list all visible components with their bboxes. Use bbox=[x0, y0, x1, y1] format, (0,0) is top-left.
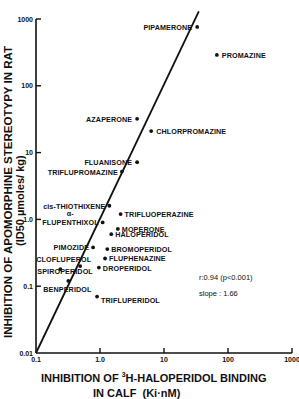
scatter-chart: 0.010.11.0101001000 0.11.0101001000 PIPA… bbox=[0, 0, 299, 399]
point-marker bbox=[107, 204, 111, 208]
x-tick-label: 1000 bbox=[284, 356, 299, 363]
data-point: SPIROPERIDOL bbox=[37, 267, 93, 276]
point-label: FLUANISONE bbox=[84, 158, 132, 167]
data-point: BROMOPERIDOL bbox=[105, 245, 172, 254]
point-marker bbox=[103, 257, 107, 261]
point-label: PIMOZIDE bbox=[54, 243, 90, 252]
slope-annotation: slope : 1.66 bbox=[199, 289, 238, 298]
point-marker bbox=[135, 117, 139, 121]
y-tick-label: 10 bbox=[25, 149, 33, 156]
data-point: CLOFLUPEROL bbox=[36, 255, 92, 268]
point-label: PROMAZINE bbox=[222, 51, 266, 60]
data-point: DROPERIDOL bbox=[97, 264, 152, 273]
x-axis-title-post: H-HALOPERIDOL BINDING bbox=[126, 372, 267, 384]
x-tick-label: 100 bbox=[222, 356, 234, 363]
point-label: FLUPENTHIXOL bbox=[42, 218, 99, 227]
data-point: TRIFLUPROMAZINE bbox=[48, 168, 124, 177]
point-label: DROPERIDOL bbox=[103, 264, 152, 273]
x-tick-label: 0.1 bbox=[31, 356, 41, 363]
point-label-prefix: α- bbox=[67, 209, 75, 218]
data-point: HALOPERIDOL bbox=[109, 230, 169, 239]
point-label: TRIFLUOPERAZINE bbox=[125, 210, 194, 219]
correlation-annotation: r:0.94 (p<0.001) bbox=[199, 273, 253, 282]
point-marker bbox=[105, 247, 109, 251]
y-axis-title-line2: (ID50 µmoles/ kg) bbox=[14, 155, 26, 246]
point-label: PIPAMERONE bbox=[143, 23, 192, 32]
data-point: PIPAMERONE bbox=[143, 23, 199, 32]
point-label: AZAPERONE bbox=[86, 115, 132, 124]
data-point: FLUPHENAZINE bbox=[103, 254, 166, 263]
point-label: TRIFLUPROMAZINE bbox=[48, 168, 118, 177]
data-point: CHLORPROMAZINE bbox=[149, 127, 226, 136]
point-marker bbox=[91, 246, 95, 250]
data-point: cis-THIOTHIXENE bbox=[43, 202, 111, 211]
y-axis-title: INHIBITION OF APOMORPHINE STEREOTYPY IN … bbox=[2, 46, 14, 338]
x-axis-ticks: 0.11.0101001000 bbox=[31, 348, 299, 363]
data-point: FLUANISONE bbox=[84, 158, 139, 167]
point-marker bbox=[135, 160, 139, 164]
y-tick-label: 0.1 bbox=[23, 283, 33, 290]
x-axis-title-line2: IN CALF (Ki·nM) bbox=[93, 387, 181, 399]
data-point: AZAPERONE bbox=[86, 115, 139, 124]
point-marker bbox=[149, 129, 153, 133]
point-label: HALOPERIDOL bbox=[115, 230, 169, 239]
point-marker bbox=[195, 25, 199, 29]
point-marker bbox=[215, 53, 219, 57]
y-tick-label: 1000 bbox=[17, 16, 33, 23]
x-tick-label: 1.0 bbox=[95, 356, 105, 363]
point-label: BENPERIDOL bbox=[43, 285, 92, 294]
point-label: TRIFLUPERIDOL bbox=[101, 296, 160, 305]
point-label: FLUPHENAZINE bbox=[109, 254, 166, 263]
point-label: CLOFLUPEROL bbox=[36, 255, 92, 264]
y-tick-label: 100 bbox=[21, 82, 33, 89]
axes bbox=[36, 19, 292, 353]
data-point: TRIFLUOPERAZINE bbox=[119, 210, 194, 219]
point-label: CHLORPROMAZINE bbox=[156, 127, 226, 136]
x-tick-label: 10 bbox=[160, 356, 168, 363]
data-points: PIPAMERONEPROMAZINEAZAPERONECHLORPROMAZI… bbox=[36, 23, 266, 305]
point-marker bbox=[95, 295, 99, 299]
point-label: BROMOPERIDOL bbox=[111, 245, 172, 254]
point-marker bbox=[97, 266, 101, 270]
data-point: TRIFLUPERIDOL bbox=[95, 295, 160, 305]
data-point: PIMOZIDE bbox=[54, 243, 95, 252]
x-axis-title-pre: INHIBITION OF bbox=[41, 372, 122, 384]
point-marker bbox=[66, 279, 70, 283]
data-point: PROMAZINE bbox=[215, 51, 266, 60]
data-point: α-FLUPENTHIXOL bbox=[42, 209, 104, 227]
point-label: cis-THIOTHIXENE bbox=[43, 202, 105, 211]
point-label: SPIROPERIDOL bbox=[37, 267, 93, 276]
point-marker bbox=[120, 170, 124, 174]
data-point: BENPERIDOL bbox=[43, 279, 92, 294]
point-marker bbox=[101, 221, 105, 225]
point-marker bbox=[119, 212, 123, 216]
x-axis-title: INHIBITION OF 3H-HALOPERIDOL BINDING bbox=[41, 371, 267, 384]
point-marker bbox=[109, 232, 113, 236]
